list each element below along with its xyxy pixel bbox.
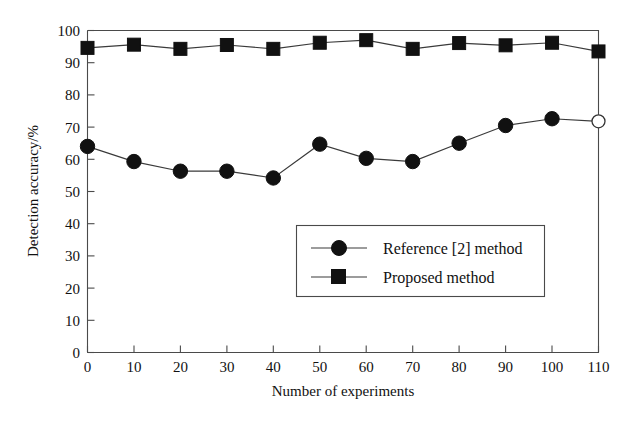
y-tick-label: 70 — [65, 120, 80, 136]
y-tick-label: 40 — [65, 216, 80, 232]
data-point-circle — [80, 139, 94, 153]
y-tick-labels: 0 10 20 30 40 50 60 70 80 90 100 — [58, 23, 81, 361]
x-tick-label: 40 — [266, 359, 281, 375]
data-point-square — [406, 42, 419, 55]
x-tick-label: 90 — [498, 359, 513, 375]
data-point-square — [81, 41, 94, 54]
data-point-circle — [220, 164, 234, 178]
y-tick-label: 90 — [65, 55, 80, 71]
series-line — [88, 40, 599, 51]
x-tick-label: 60 — [359, 359, 374, 375]
legend-label-reference: Reference [2] method — [383, 240, 522, 257]
data-point-circle — [313, 137, 327, 151]
legend-marker-circle-icon — [332, 241, 347, 256]
legend: Reference [2] method Proposed method — [297, 226, 545, 297]
y-tick-label: 50 — [65, 184, 80, 200]
x-tick-label: 110 — [588, 359, 610, 375]
data-point-square — [453, 37, 466, 50]
data-point-square — [174, 42, 187, 55]
x-tick-label: 70 — [405, 359, 420, 375]
data-point-circle — [173, 164, 187, 178]
series-reference — [80, 112, 605, 186]
y-tick-label: 60 — [65, 152, 80, 168]
data-point-circle — [405, 154, 419, 168]
x-tick-label: 30 — [219, 359, 234, 375]
y-tick-label: 100 — [58, 23, 81, 39]
data-point-circle — [452, 136, 466, 150]
data-point-square — [313, 36, 326, 49]
x-tick-label: 50 — [312, 359, 327, 375]
x-tick-labels: 0 10 20 30 40 50 60 70 80 90 100 110 — [84, 359, 610, 375]
data-point-circle — [498, 118, 512, 132]
y-tick-label: 80 — [65, 87, 80, 103]
x-tick-label: 0 — [84, 359, 92, 375]
detection-accuracy-chart: 0 10 20 30 40 50 60 70 80 90 100 0 10 20… — [0, 0, 638, 423]
series-proposed — [81, 34, 605, 58]
y-tick-label: 10 — [65, 313, 80, 329]
y-axis-title: Detection accuracy/% — [25, 125, 41, 257]
data-point-square — [592, 45, 605, 58]
series-layer — [80, 34, 605, 186]
data-point-square — [499, 39, 512, 52]
x-tick-label: 100 — [541, 359, 564, 375]
data-point-square — [220, 38, 233, 51]
data-point-square — [360, 34, 373, 47]
y-tick-label: 30 — [65, 248, 80, 264]
data-point-square — [546, 36, 559, 49]
y-tick-label: 0 — [73, 345, 81, 361]
legend-marker-square-icon — [332, 270, 346, 284]
data-point-square — [267, 42, 280, 55]
x-tick-label: 80 — [452, 359, 467, 375]
data-point-circle — [266, 171, 280, 185]
legend-label-proposed: Proposed method — [383, 269, 495, 287]
data-point-circle — [359, 151, 373, 165]
y-tick-marks — [88, 31, 95, 353]
x-tick-label: 20 — [173, 359, 188, 375]
series-line — [88, 119, 599, 178]
data-point-square — [127, 38, 140, 51]
x-tick-label: 10 — [127, 359, 142, 375]
y-tick-label: 20 — [65, 281, 80, 297]
data-point-circle-open — [592, 115, 605, 128]
data-point-circle — [545, 112, 559, 126]
x-axis-title: Number of experiments — [272, 383, 415, 399]
plot-frame — [88, 31, 599, 353]
data-point-circle — [127, 154, 141, 168]
x-tick-marks — [88, 346, 599, 353]
